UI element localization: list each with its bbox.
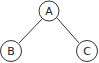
edge-a-c [57,18,79,43]
node-a: A [39,1,59,21]
edge-a-b [19,19,42,43]
node-b: B [1,41,22,62]
node-c: C [77,41,98,62]
node-b-label: B [7,45,15,58]
node-a-label: A [45,5,53,18]
node-c-label: C [83,45,91,58]
tree-diagram: A B C [0,0,99,63]
